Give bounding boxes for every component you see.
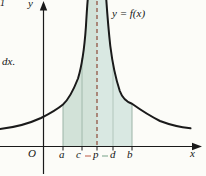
x-label-p: p [93, 149, 99, 160]
mini-dash-p-to-d [102, 155, 108, 157]
x-label-b: b [127, 149, 133, 160]
page-text-fragment: 1 [0, 0, 5, 8]
improper-integral-figure: 1 dx. y y = f(x) x O a c p d b [0, 0, 206, 176]
margin-text-dx: dx. [2, 56, 15, 67]
curve-label: y = f(x) [112, 8, 145, 19]
mini-dash-c-to-p [85, 155, 91, 157]
y-axis-label: y [28, 0, 33, 9]
x-label-d: d [110, 149, 116, 160]
x-axis-label: x [190, 148, 195, 159]
x-label-a: a [59, 149, 65, 160]
y-axis-arrow-icon [40, 1, 47, 11]
x-label-c: c [76, 149, 81, 160]
origin-label: O [28, 148, 36, 159]
